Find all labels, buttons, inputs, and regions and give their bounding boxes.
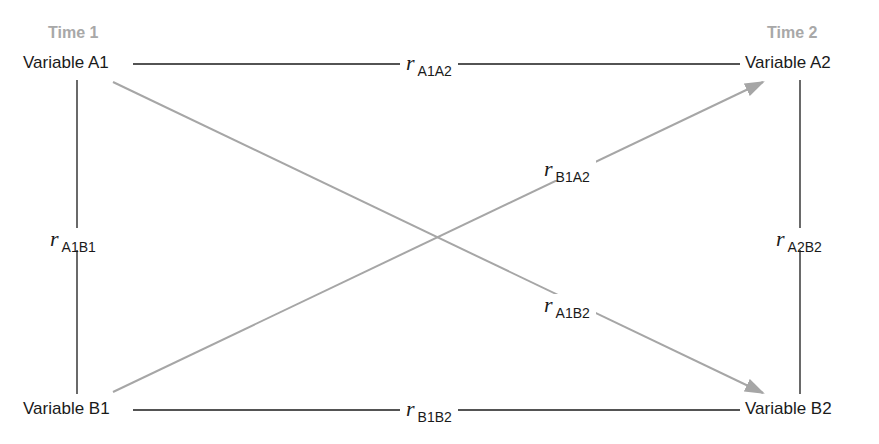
corr-a2b2-label: rA2B2	[770, 228, 828, 250]
corr-symbol: r	[776, 226, 785, 251]
corr-subscript: A1B1	[62, 239, 96, 255]
corr-symbol: r	[406, 396, 415, 421]
corr-a1b2-label: rA1B2	[538, 294, 596, 316]
corr-a1b1-label: rA1B1	[44, 228, 102, 250]
time-2-label: Time 2	[767, 24, 817, 42]
corr-a1a2-label: rA1A2	[400, 52, 458, 74]
variable-a2-label: Variable A2	[745, 53, 831, 73]
corr-symbol: r	[544, 156, 553, 181]
corr-symbol: r	[544, 292, 553, 317]
corr-subscript: A1A2	[418, 63, 452, 79]
corr-b1a2-label: rB1A2	[538, 158, 596, 180]
variable-a1-label: Variable A1	[23, 53, 109, 73]
time-1-label: Time 1	[48, 24, 98, 42]
variable-b1-label: Variable B1	[23, 399, 110, 419]
variable-b2-label: Variable B2	[745, 399, 832, 419]
corr-subscript: A2B2	[788, 239, 822, 255]
corr-subscript: B1B2	[418, 409, 452, 425]
corr-symbol: r	[406, 50, 415, 75]
corr-subscript: A1B2	[556, 305, 590, 321]
corr-b1b2-label: rB1B2	[400, 398, 458, 420]
corr-symbol: r	[50, 226, 59, 251]
corr-subscript: B1A2	[556, 169, 590, 185]
